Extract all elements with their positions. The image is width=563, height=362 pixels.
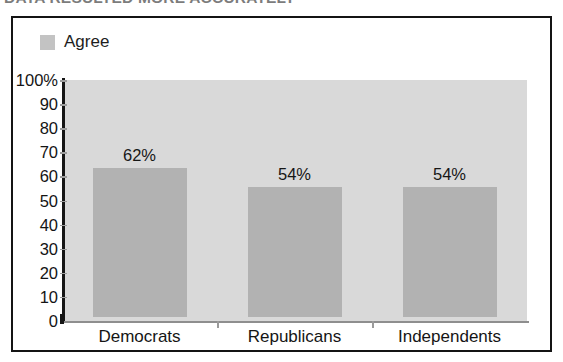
bar-republicans: [248, 187, 342, 317]
bar-value-label: 54%: [433, 165, 466, 184]
y-axis-tick: [60, 225, 67, 227]
x-axis-category-label: Independents: [398, 327, 501, 347]
headline-text: DATA RESULTED MORE ACCURATELY: [4, 0, 295, 7]
y-axis-tick-label: 60: [40, 167, 58, 186]
y-axis-tick: [60, 273, 67, 275]
y-axis-tick-label: 10: [40, 287, 58, 306]
x-axis-category-label: Democrats: [98, 327, 180, 347]
bar-democrats: [93, 168, 187, 317]
y-axis-tick: [60, 128, 67, 130]
x-axis-tick: [372, 321, 374, 328]
y-axis-tick: [60, 152, 67, 154]
y-axis-tick: [60, 249, 67, 251]
bar-independents: [403, 187, 497, 317]
x-axis-line: [62, 321, 529, 323]
y-axis-tick-label: 90: [40, 95, 58, 114]
plot-band: [62, 80, 527, 128]
y-axis-tick: [60, 80, 67, 82]
x-axis-tick: [217, 321, 219, 328]
y-axis-tick-label: 70: [40, 143, 58, 162]
y-axis-tick: [60, 176, 67, 178]
y-axis-labels: 0102030405060708090100%: [13, 18, 58, 354]
bar-value-label: 54%: [278, 165, 311, 184]
y-axis-tick-label: 20: [40, 263, 58, 282]
bar-value-label: 62%: [123, 146, 156, 165]
y-axis-tick: [60, 297, 67, 299]
y-axis-tick-label: 0: [49, 312, 58, 331]
y-axis-origin-tick: [60, 314, 64, 324]
y-axis-tick: [60, 104, 67, 106]
headline-clip: DATA RESULTED MORE ACCURATELY: [0, 0, 563, 9]
y-axis-tick-label: 50: [40, 191, 58, 210]
legend-label-agree: Agree: [64, 32, 109, 52]
y-axis-tick-label: 40: [40, 215, 58, 234]
y-axis-tick-label: 80: [40, 119, 58, 138]
y-axis-tick-label: 100%: [16, 71, 58, 90]
y-axis-tick: [60, 201, 67, 203]
y-axis-tick-label: 30: [40, 239, 58, 258]
chart-frame: Agree 0102030405060708090100% 62%54%54% …: [11, 16, 552, 352]
x-axis-category-label: Republicans: [248, 327, 342, 347]
